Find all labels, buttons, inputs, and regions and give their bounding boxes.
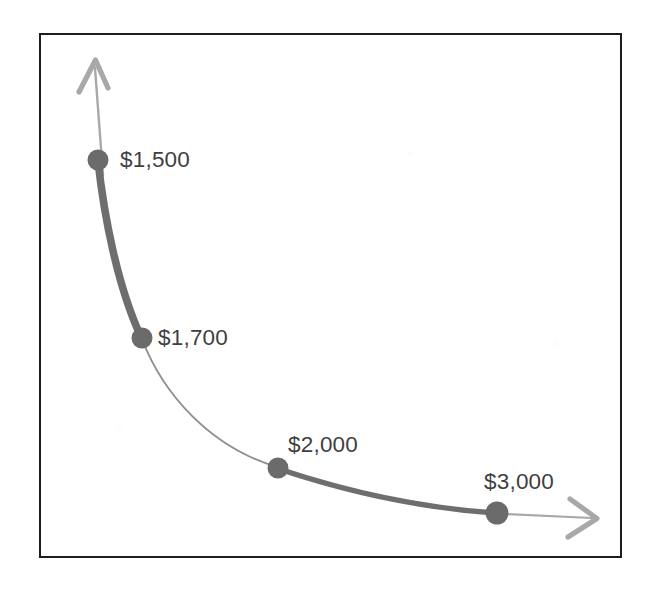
data-label-3000: $3,000 xyxy=(484,471,554,494)
data-label-1500: $1,500 xyxy=(120,149,190,172)
chart-figure: $1,500 $1,700 $2,000 $3,000 xyxy=(0,0,662,593)
data-label-2000: $2,000 xyxy=(288,434,358,457)
data-label-1700: $1,700 xyxy=(158,327,228,350)
